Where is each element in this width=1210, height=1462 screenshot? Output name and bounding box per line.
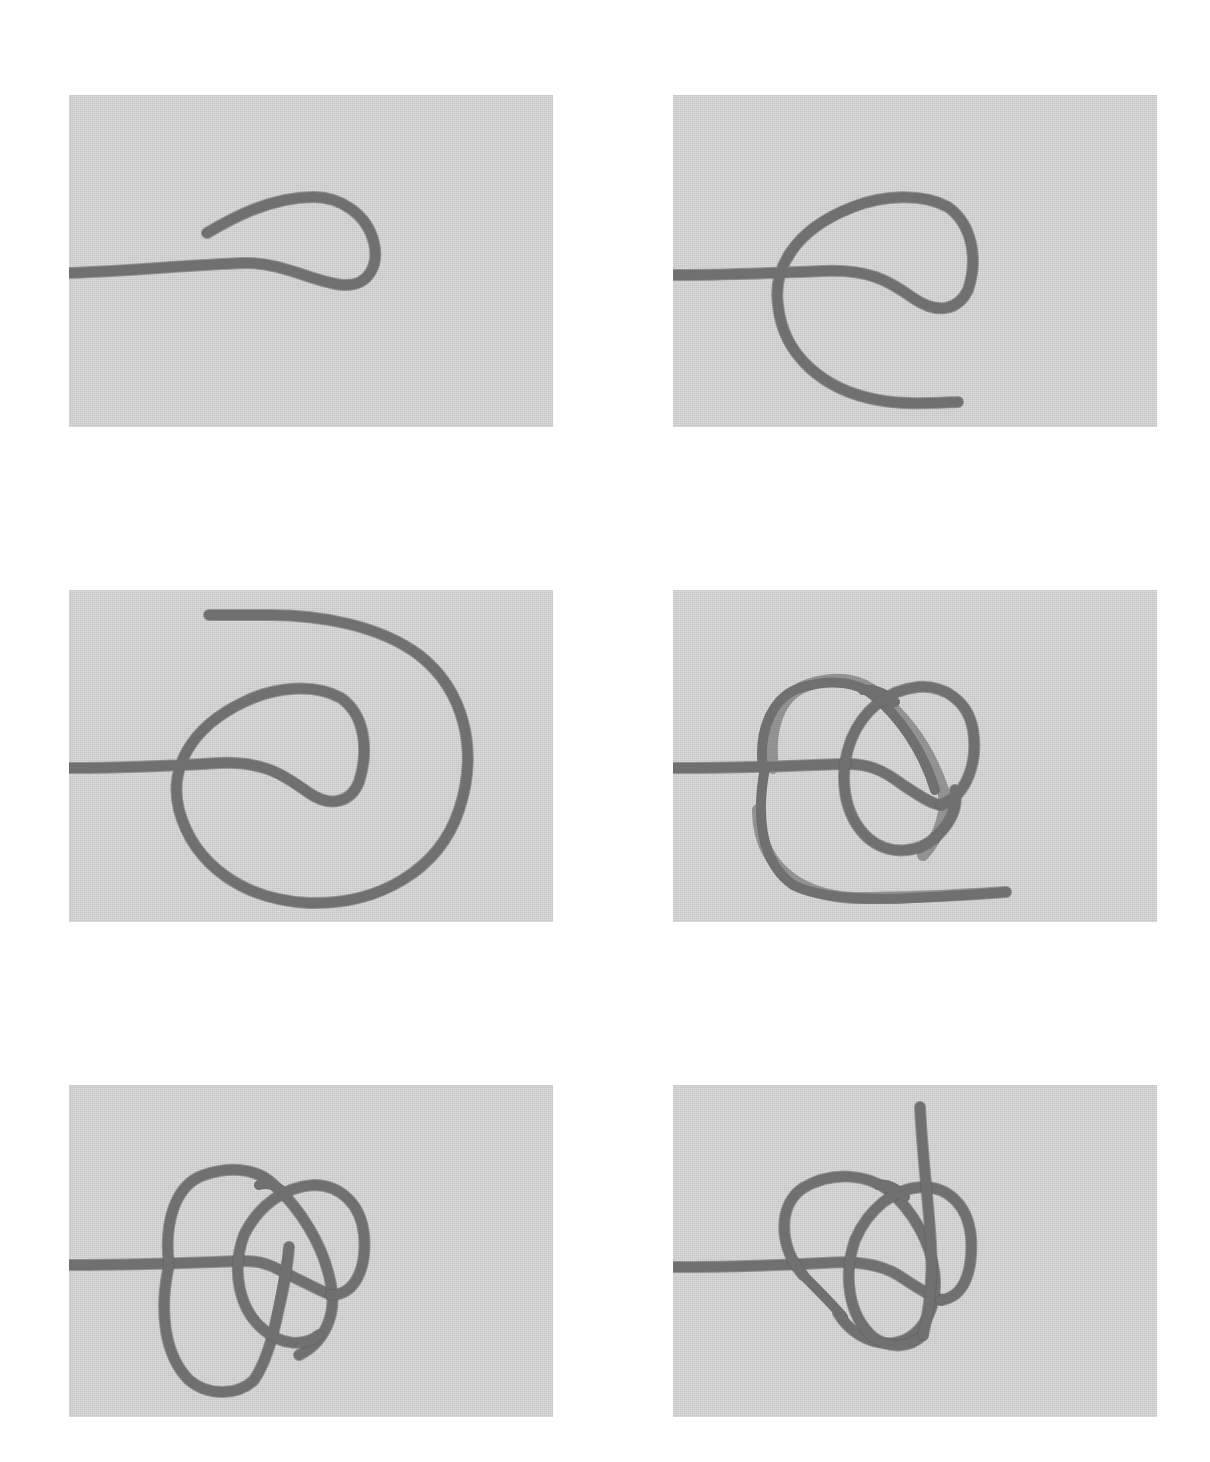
- step-4-panel: Working end passed through forming overl…: [673, 590, 1157, 922]
- step-1-panel: Rope laid horizontally from left, workin…: [69, 95, 553, 427]
- rope-step-1-illustration: [69, 95, 553, 427]
- rope-step-4-illustration: [673, 590, 1157, 922]
- rope-step-6-illustration: [673, 1085, 1157, 1417]
- rope-step-3-illustration: [69, 590, 553, 922]
- rope-step-5-illustration: [69, 1085, 553, 1417]
- step-6-panel: Knot dressed with tail pointing straight…: [673, 1085, 1157, 1417]
- step-2-panel: Working end brought down around and unde…: [673, 95, 1157, 427]
- step-5-panel: Working end woven through the overlappin…: [69, 1085, 553, 1417]
- step-3-panel: Working end taken in a large clockwise c…: [69, 590, 553, 922]
- rope-step-2-illustration: [673, 95, 1157, 427]
